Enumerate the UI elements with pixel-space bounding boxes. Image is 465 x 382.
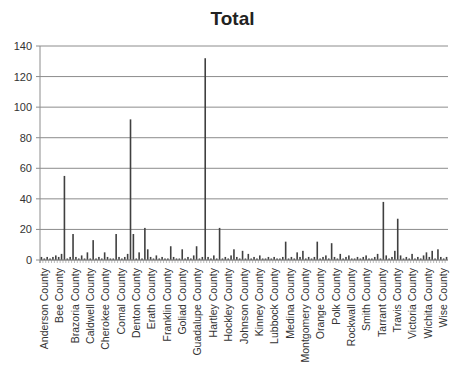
y-tick-label: 0 [26, 254, 32, 266]
x-tick-label: Polk County [330, 267, 342, 324]
x-tick-label: Kinney County [253, 267, 265, 336]
bar [397, 219, 399, 260]
bar [339, 254, 341, 260]
bar [437, 249, 439, 260]
bar [170, 246, 172, 260]
bar [377, 254, 379, 260]
bar [204, 58, 206, 260]
bar [431, 251, 433, 260]
bar [130, 119, 132, 260]
x-tick-label: Smith County [360, 267, 372, 331]
bar [196, 246, 198, 260]
bar [242, 251, 244, 260]
y-tick-label: 20 [20, 223, 32, 235]
y-tick-label: 120 [14, 71, 32, 83]
x-tick-label: Johnson County [238, 267, 250, 344]
y-tick-label: 80 [20, 132, 32, 144]
bar [92, 240, 94, 260]
bar [213, 255, 215, 260]
y-axis: 020406080100120140 [14, 40, 40, 266]
bar [296, 252, 298, 260]
x-tick-label: Erath County [145, 267, 157, 329]
bar [219, 228, 221, 260]
bar [331, 243, 333, 260]
x-axis: Anderson CountyBee CountyBrazoria County… [38, 260, 449, 363]
bar [230, 255, 232, 260]
x-tick-label: Denton County [130, 267, 142, 338]
bar [64, 176, 66, 260]
bar [138, 252, 140, 260]
x-tick-label: Wichita County [422, 267, 434, 338]
x-tick-label: Cherokee County [99, 267, 111, 349]
x-tick-label: Caldwell County [84, 267, 96, 344]
bar [423, 255, 425, 260]
x-tick-label: Lubbock County [268, 267, 280, 344]
x-tick-label: Hartley County [207, 267, 219, 337]
bar [147, 249, 149, 260]
bar [72, 234, 74, 260]
bar [61, 254, 63, 260]
y-tick-label: 140 [14, 40, 32, 52]
bar [302, 251, 304, 260]
bar [426, 252, 428, 260]
bar [400, 255, 402, 260]
bar [87, 252, 89, 260]
x-tick-label: Comal County [115, 267, 127, 334]
bar [383, 202, 385, 260]
x-tick-label: Franklin County [161, 267, 173, 341]
x-tick-label: Bee County [53, 267, 65, 323]
gridlines [36, 46, 448, 260]
x-tick-label: Orange County [314, 267, 326, 339]
bar [233, 249, 235, 260]
bar [325, 255, 327, 260]
x-tick-label: Victoria County [406, 267, 418, 339]
x-tick-label: Brazoria County [69, 267, 81, 343]
x-tick-label: Guadalupe County [191, 267, 203, 355]
x-tick-label: Medina County [284, 267, 296, 338]
bar [144, 228, 146, 260]
y-tick-label: 60 [20, 162, 32, 174]
bar [156, 255, 158, 260]
bar [316, 242, 318, 260]
bar [385, 255, 387, 260]
bar [285, 242, 287, 260]
bar [81, 255, 83, 260]
x-tick-label: Tarrant County [376, 267, 388, 337]
bar [259, 255, 261, 260]
x-tick-label: Rockwall County [345, 267, 357, 346]
bar [133, 234, 135, 260]
bar [348, 255, 350, 260]
x-tick-label: Travis County [391, 267, 403, 332]
bar [365, 255, 367, 260]
x-tick-label: Anderson County [38, 267, 50, 349]
bar [181, 249, 183, 260]
x-tick-label: Wise County [437, 267, 449, 327]
bar [127, 254, 129, 260]
bar [104, 252, 106, 260]
x-tick-label: Goliad County [176, 267, 188, 334]
bar [193, 255, 195, 260]
bar [115, 234, 117, 260]
bar [394, 251, 396, 260]
bar [55, 255, 57, 260]
y-tick-label: 40 [20, 193, 32, 205]
bar-chart: 020406080100120140 Anderson CountyBee Co… [0, 0, 465, 382]
x-tick-label: Montgomery County [299, 267, 311, 362]
y-tick-label: 100 [14, 101, 32, 113]
bar [248, 254, 250, 260]
bar [411, 254, 413, 260]
x-tick-label: Hockley County [222, 267, 234, 341]
